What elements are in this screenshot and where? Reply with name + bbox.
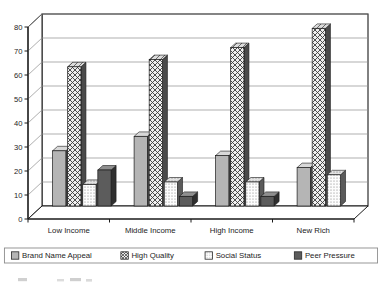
bar-front-face	[83, 184, 96, 206]
y-axis-tick-label: 60	[14, 71, 22, 80]
bar-peer-pressure-low-income	[98, 166, 116, 207]
bar-front-face	[297, 168, 310, 206]
bar-front-face	[179, 196, 192, 206]
swatch-brand-name-appeal	[11, 252, 18, 259]
y-axis-tick-label: 0	[18, 215, 22, 224]
swatch-peer-pressure	[294, 252, 301, 259]
y-axis-tick-label: 30	[14, 143, 22, 152]
bar-peer-pressure-high-income	[261, 192, 279, 206]
bar-front-face	[327, 175, 340, 206]
y-axis-tick-label: 10	[14, 191, 22, 200]
bar-front-face	[231, 48, 244, 206]
caption-remnant	[18, 278, 92, 282]
x-axis-category-label: Middle Income	[125, 226, 176, 235]
bar-front-face	[261, 196, 274, 206]
x-axis-category-label: Low Income	[48, 226, 90, 235]
bar-front-face	[246, 182, 259, 206]
chart-legend: Brand Name AppealHigh QualitySocial Stat…	[4, 248, 377, 263]
legend-label: Social Status	[216, 251, 262, 260]
y-axis-tick-label: 20	[14, 167, 22, 176]
bar-front-face	[149, 60, 162, 206]
bar-side-face	[111, 166, 116, 207]
y-axis: 01020304050607080	[14, 23, 28, 224]
chart-container: 01020304050607080 Low IncomeMiddle Incom…	[0, 0, 378, 282]
bar-front-face	[312, 28, 325, 206]
x-axis-category-label: High Income	[210, 226, 254, 235]
bar-front-face	[68, 67, 81, 206]
bar-social-status-new-rich	[327, 170, 345, 206]
y-axis-tick-label: 40	[14, 119, 22, 128]
bar-front-face	[134, 136, 147, 206]
legend-label: Peer Pressure	[305, 251, 355, 260]
bar-front-face	[53, 151, 66, 206]
x-axis-category-label: New Rich	[297, 226, 330, 235]
swatch-social-status	[205, 252, 212, 259]
floor-panel	[28, 206, 368, 219]
y-axis-tick-label: 80	[14, 23, 22, 32]
x-axis: Low IncomeMiddle IncomeHigh IncomeNew Ri…	[28, 219, 354, 235]
y-axis-tick-label: 50	[14, 95, 22, 104]
bar-front-face	[98, 170, 111, 206]
bar-front-face	[164, 182, 177, 206]
y-axis-tick-label: 70	[14, 47, 22, 56]
bar-front-face	[216, 156, 229, 206]
bar-side-face	[341, 170, 346, 206]
legend-label: Brand Name Appeal	[22, 251, 92, 260]
bar-peer-pressure-middle-income	[179, 192, 197, 206]
swatch-high-quality	[121, 252, 128, 259]
grouped-column-chart-3d: 01020304050607080 Low IncomeMiddle Incom…	[0, 0, 378, 282]
legend-label: High Quality	[131, 251, 174, 260]
